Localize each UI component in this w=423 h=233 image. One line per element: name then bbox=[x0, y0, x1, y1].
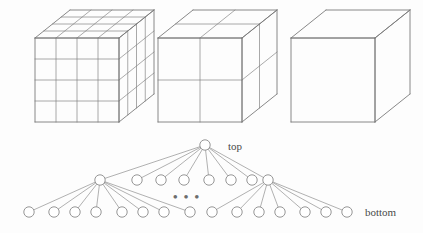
tree-node-leaf bbox=[342, 207, 352, 217]
tree-node-level2 bbox=[204, 175, 214, 185]
tree-node-leaf bbox=[254, 207, 264, 217]
tree-node-level2 bbox=[226, 175, 236, 185]
tree-edge-left-branch bbox=[34, 182, 96, 210]
tree-edge-left-branch bbox=[97, 185, 100, 207]
cube-right-depthline bbox=[375, 10, 410, 38]
tree-node-level2 bbox=[156, 175, 166, 185]
tree-nodes bbox=[24, 140, 352, 217]
tree-edge-left-branch bbox=[105, 182, 160, 209]
tree-edge-right-branch bbox=[217, 183, 264, 210]
label-bottom: bottom bbox=[365, 206, 397, 218]
tree-edge-right-branch bbox=[273, 182, 342, 210]
figure-container: top bottom • • • bbox=[0, 0, 423, 233]
tree-node-leaf bbox=[185, 207, 195, 217]
tree-node-leaf bbox=[117, 207, 127, 217]
tree-edge-root bbox=[206, 150, 209, 175]
cube-level-bottom bbox=[35, 10, 154, 122]
tree-edge-root bbox=[105, 147, 200, 179]
tree-node-leaf bbox=[70, 207, 80, 217]
tree-node-leaf bbox=[300, 207, 310, 217]
tree-node-root bbox=[200, 140, 210, 150]
tree-node-leaf bbox=[49, 207, 59, 217]
tree-node-leaf bbox=[207, 207, 217, 217]
tree-edge-right-branch bbox=[260, 185, 266, 207]
tree-edge-root bbox=[209, 148, 248, 177]
tree-node-leaf bbox=[321, 207, 331, 217]
label-top: top bbox=[228, 140, 243, 152]
tree-node-level2 bbox=[247, 175, 257, 185]
tree-node-leaf bbox=[232, 207, 242, 217]
tree-node-leaf bbox=[159, 207, 169, 217]
tree-node-leaf bbox=[138, 207, 148, 217]
tree-edge-left-branch bbox=[104, 183, 139, 209]
tree-node-leaf bbox=[91, 207, 101, 217]
cube-top-depthline bbox=[291, 10, 326, 38]
tree-edge-right-branch bbox=[270, 185, 278, 207]
tree-node-level2 bbox=[132, 175, 142, 185]
cube-row bbox=[35, 10, 410, 122]
tree-edge-left-branch bbox=[78, 184, 97, 208]
ellipsis-marker: • • • bbox=[173, 189, 201, 204]
tree-edge-root bbox=[142, 147, 201, 177]
octree-hierarchy-figure: top bottom • • • bbox=[0, 0, 423, 233]
tree-node-leaf bbox=[24, 207, 34, 217]
tree-node-leaf bbox=[275, 207, 285, 217]
tree-node-branch bbox=[95, 175, 105, 185]
tree-node-level2 bbox=[179, 175, 189, 185]
cube-right-depthline bbox=[375, 94, 410, 122]
tree-node-branch bbox=[263, 175, 273, 185]
cube-level-top bbox=[291, 10, 410, 122]
cube-level-middle bbox=[158, 10, 277, 122]
tree-edge-root bbox=[208, 149, 228, 176]
